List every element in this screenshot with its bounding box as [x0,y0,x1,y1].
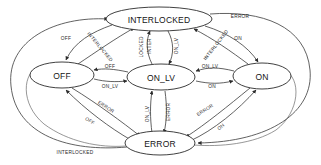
edge-label-interlocked-upper-left: INTERLOCKED [86,31,114,63]
edge-onlv-to-off [94,69,128,72]
edge-label-error-lower-right: ERROR [196,103,215,117]
node-off-label: OFF [53,71,71,81]
edge-label-onlv-vertical-bottom: ON_LV [145,105,150,122]
diagram-canvas: INTERLOCKED OFF ON_LV ON ERROR ERROR ON [0,0,321,165]
node-on-lv-label: ON_LV [147,73,175,83]
edge-label-off-middle: OFF [105,64,115,69]
node-on[interactable]: ON [233,63,291,89]
edge-label-error-lower-left: ERROR [97,100,116,114]
edge-label-error-vertical-bottom: ERROR [166,102,171,121]
state-machine-diagram: INTERLOCKED OFF ON_LV ON ERROR ERROR ON [0,0,321,165]
nodes-layer: INTERLOCKED OFF ON_LV ON ERROR [30,7,291,155]
edge-off-to-error [72,88,140,136]
node-interlocked[interactable]: INTERLOCKED [106,7,212,31]
edge-label-onlv-middle-left: ON_LV [102,84,119,89]
edge-label-onlv-vertical-top: ON_LV [174,37,179,54]
edge-error-to-off [66,90,131,140]
edge-label-off-top-left: OFF [61,36,71,41]
edge-label-off-lower-left: OFF [84,116,95,126]
edge-label-locked: LOCKED [139,36,144,58]
edge-label-on-lower-right: ON [216,122,225,131]
edge-label-on-middle-right: ON [208,84,216,89]
node-on-lv[interactable]: ON_LV [127,64,195,90]
edge-label-interlocked-upper-right: INTERLOCKED [203,29,230,61]
edge-label-interlocked-bottom: INTERLOCKED [57,150,94,155]
node-error[interactable]: ERROR [125,131,195,155]
node-off[interactable]: OFF [30,62,94,88]
edge-label-onlv-middle-right: ON_LV [202,64,219,69]
node-interlocked-label: INTERLOCKED [128,15,191,25]
node-error-label: ERROR [144,139,176,149]
edge-error-to-onlv [151,91,153,133]
node-on-label: ON [255,72,268,82]
edge-interlocked-to-onlv [168,31,173,64]
edge-label-on-top-right: ON [234,36,242,41]
edge-label-inter: INTER [147,38,152,54]
edge-label-error-top-right: ERROR [231,14,250,19]
edge-off-to-onlv [94,79,127,82]
